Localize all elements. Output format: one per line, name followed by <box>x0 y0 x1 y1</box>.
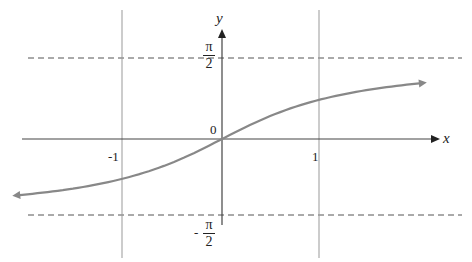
origin-label: 0 <box>210 122 217 138</box>
x-axis-label: x <box>443 130 450 147</box>
x-axis-arrow-icon <box>431 135 440 143</box>
frac-numerator: π <box>205 218 212 232</box>
tick-label-pi-over-2: π 2 <box>203 40 215 71</box>
tick-label-1: 1 <box>312 149 319 165</box>
frac-denominator: 2 <box>206 57 213 71</box>
y-axis-label: y <box>216 10 223 27</box>
y-axis-arrow-icon <box>218 29 226 38</box>
curve-start-arrow-icon <box>12 191 20 199</box>
frac-denominator: 2 <box>206 235 213 249</box>
plot-canvas <box>0 0 472 262</box>
curve-end-arrow-icon <box>419 80 427 88</box>
tick-label-neg1: -1 <box>108 149 119 165</box>
tick-label-neg-pi-over-2: π 2 <box>203 218 215 249</box>
frac-numerator: π <box>205 40 212 54</box>
minus-sign: - <box>194 225 198 241</box>
